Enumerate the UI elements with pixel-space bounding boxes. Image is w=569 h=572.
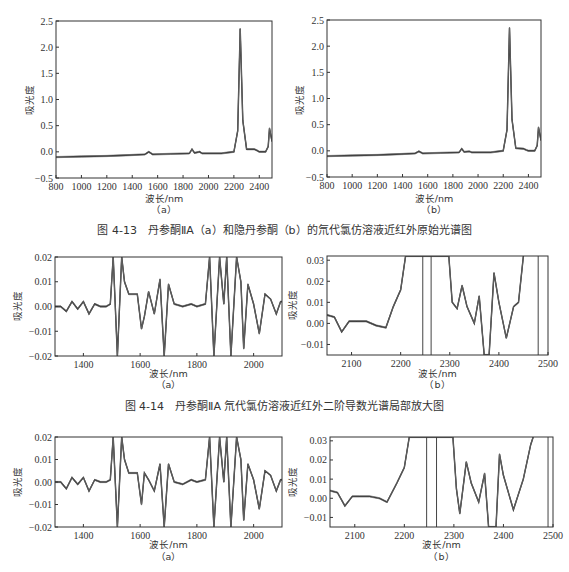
chart-panel-4-13a: −0.50.00.51.01.52.02.5800100012001400160…	[24, 16, 272, 216]
y-axis-label: 吸光度	[24, 85, 35, 115]
y-axis-label: 吸光度	[287, 467, 298, 497]
x-axis-label: 波长/nm	[418, 368, 456, 379]
y-axis-label: 吸光度	[12, 467, 23, 497]
x-tick-label: 1400	[73, 530, 93, 541]
y-tick-label: 0.01	[35, 276, 53, 287]
subfigure-label: （b）	[428, 551, 454, 562]
x-tick-label: 1600	[130, 359, 150, 370]
y-tick-label: 0.03	[307, 255, 325, 266]
x-axis-label: 波长/nm	[149, 368, 187, 379]
y-tick-label: 0.0	[312, 145, 325, 156]
x-tick-label: 2200	[224, 181, 244, 192]
spectrum-lines	[327, 255, 538, 355]
x-tick-label: 800	[320, 180, 335, 191]
x-tick-label: 2000	[244, 359, 264, 370]
y-tick-label: 0.02	[310, 454, 328, 465]
x-tick-label: 1200	[97, 181, 117, 192]
y-tick-label: 2.0	[41, 42, 54, 53]
x-tick-label: 1600	[130, 530, 150, 541]
y-tick-label: −0.02	[29, 522, 52, 533]
spectrum-lines	[55, 256, 282, 356]
y-tick-label: 1.5	[41, 68, 54, 79]
plot-frame	[55, 437, 282, 527]
spectrum-lines	[55, 436, 282, 527]
y-tick-label: 1.0	[41, 94, 54, 105]
y-tick-label: 0.01	[310, 474, 328, 485]
y-tick-label: 0.00	[35, 477, 53, 488]
y-tick-label: −0.01	[29, 499, 52, 510]
y-tick-label: 0.00	[310, 493, 328, 504]
spectrum-lines	[330, 436, 548, 527]
x-tick-label: 2000	[198, 181, 218, 192]
x-tick-label: 2500	[543, 530, 563, 541]
y-tick-label: −0.01	[29, 326, 52, 337]
y-tick-label: 0.0	[41, 146, 54, 157]
x-tick-label: 1800	[187, 359, 207, 370]
x-axis-label: 波长/nm	[415, 193, 453, 204]
figure-caption-4-13: 图 4-13 丹参酮ⅡA（a）和隐丹参酮（b）的氘代氯仿溶液近红外原始光谱图	[0, 221, 569, 237]
spectrum-lines	[327, 27, 541, 157]
x-axis-label: 波长/nm	[145, 193, 183, 204]
subfigure-label: （a）	[156, 551, 182, 562]
figure-canvas: −0.50.00.51.01.52.02.5800100012001400160…	[0, 0, 569, 572]
y-tick-label: 0.02	[35, 432, 53, 443]
x-tick-label: 1800	[443, 180, 463, 191]
y-tick-label: 0.00	[307, 318, 325, 329]
x-tick-label: 2500	[538, 358, 558, 369]
y-tick-label: 0.00	[35, 301, 53, 312]
x-axis-label: 波长/nm	[149, 539, 187, 550]
x-tick-label: 1200	[367, 180, 387, 191]
plot-frame	[55, 257, 282, 356]
x-tick-label: 1400	[73, 359, 93, 370]
x-tick-label: 1600	[418, 180, 438, 191]
x-tick-label: 1400	[122, 181, 142, 192]
y-tick-label: 1.5	[312, 67, 325, 78]
subfigure-label: （a）	[151, 204, 177, 215]
y-tick-label: 2.5	[312, 15, 325, 26]
chart-panel-4-14a: −0.02−0.010.000.010.021400160018002000波长…	[12, 252, 282, 391]
chart-panel-4-15b: −0.010.000.010.020.032100220023002400250…	[287, 435, 563, 562]
y-axis-label: 吸光度	[287, 290, 298, 320]
x-tick-label: 1000	[342, 180, 362, 191]
chart-panel-4-15a: −0.02−0.010.000.010.021400160018002000波长…	[12, 432, 282, 563]
x-tick-label: 1400	[393, 180, 413, 191]
y-tick-label: −0.01	[304, 512, 327, 523]
x-tick-label: 1000	[71, 181, 91, 192]
x-tick-label: 2200	[493, 180, 513, 191]
y-tick-label: 0.02	[307, 276, 325, 287]
figure-caption-4-14: 图 4-14 丹参酮ⅡA 氘代氯仿溶液近红外二阶导数光谱局部放大图	[0, 397, 569, 413]
plot-frame	[330, 437, 553, 527]
y-tick-label: 2.0	[312, 41, 325, 52]
x-tick-label: 1800	[187, 530, 207, 541]
y-axis-label: 吸光度	[294, 85, 305, 115]
x-tick-label: 2400	[518, 180, 538, 191]
y-axis-label: 吸光度	[12, 291, 23, 321]
x-tick-label: 800	[49, 181, 64, 192]
x-tick-label: 2200	[394, 530, 414, 541]
y-tick-label: 0.02	[35, 252, 53, 263]
subfigure-label: （b）	[421, 204, 447, 215]
y-tick-label: −0.02	[29, 351, 52, 362]
x-tick-label: 2400	[493, 530, 513, 541]
y-tick-label: 0.5	[41, 120, 54, 131]
spectrum-lines	[56, 28, 272, 158]
y-tick-label: 0.5	[312, 119, 325, 130]
y-tick-label: −0.01	[301, 339, 324, 350]
x-tick-label: 2000	[244, 530, 264, 541]
y-tick-label: 0.01	[35, 454, 53, 465]
x-tick-label: 2100	[345, 530, 365, 541]
subfigure-label: （b）	[424, 379, 450, 390]
x-tick-label: 1800	[173, 181, 193, 192]
subfigure-label: （a）	[156, 379, 182, 390]
x-tick-label: 2000	[468, 180, 488, 191]
x-axis-label: 波长/nm	[422, 539, 460, 550]
y-tick-label: 2.5	[41, 16, 54, 27]
y-tick-label: 1.0	[312, 93, 325, 104]
chart-panel-4-13b: −0.50.00.51.01.52.02.5800100012001400160…	[294, 15, 541, 216]
x-tick-label: 2200	[391, 358, 411, 369]
x-tick-label: 2400	[249, 181, 269, 192]
x-tick-label: 2100	[342, 358, 362, 369]
y-tick-label: 0.01	[307, 297, 325, 308]
chart-panel-4-14b: −0.010.000.010.020.032100220023002400250…	[287, 255, 558, 390]
x-tick-label: 2400	[489, 358, 509, 369]
